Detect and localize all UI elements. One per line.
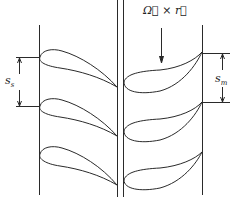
rotor-blade xyxy=(124,102,202,142)
stator-pitch-label: ss xyxy=(5,74,14,89)
stator-blade xyxy=(40,147,117,185)
stator-pitch-dimension xyxy=(16,58,40,107)
rotor-blades xyxy=(124,52,202,190)
stator-blade xyxy=(40,99,117,136)
cascade-diagram xyxy=(0,0,241,208)
rotor-blade xyxy=(124,152,202,190)
stator-blades xyxy=(40,50,117,185)
stator-blade xyxy=(40,50,117,87)
rotation-vector-label: Ω⃗ × r⃗ xyxy=(143,4,187,17)
rotor-pitch-label: sm xyxy=(215,72,227,87)
rotation-arrow xyxy=(160,28,164,63)
